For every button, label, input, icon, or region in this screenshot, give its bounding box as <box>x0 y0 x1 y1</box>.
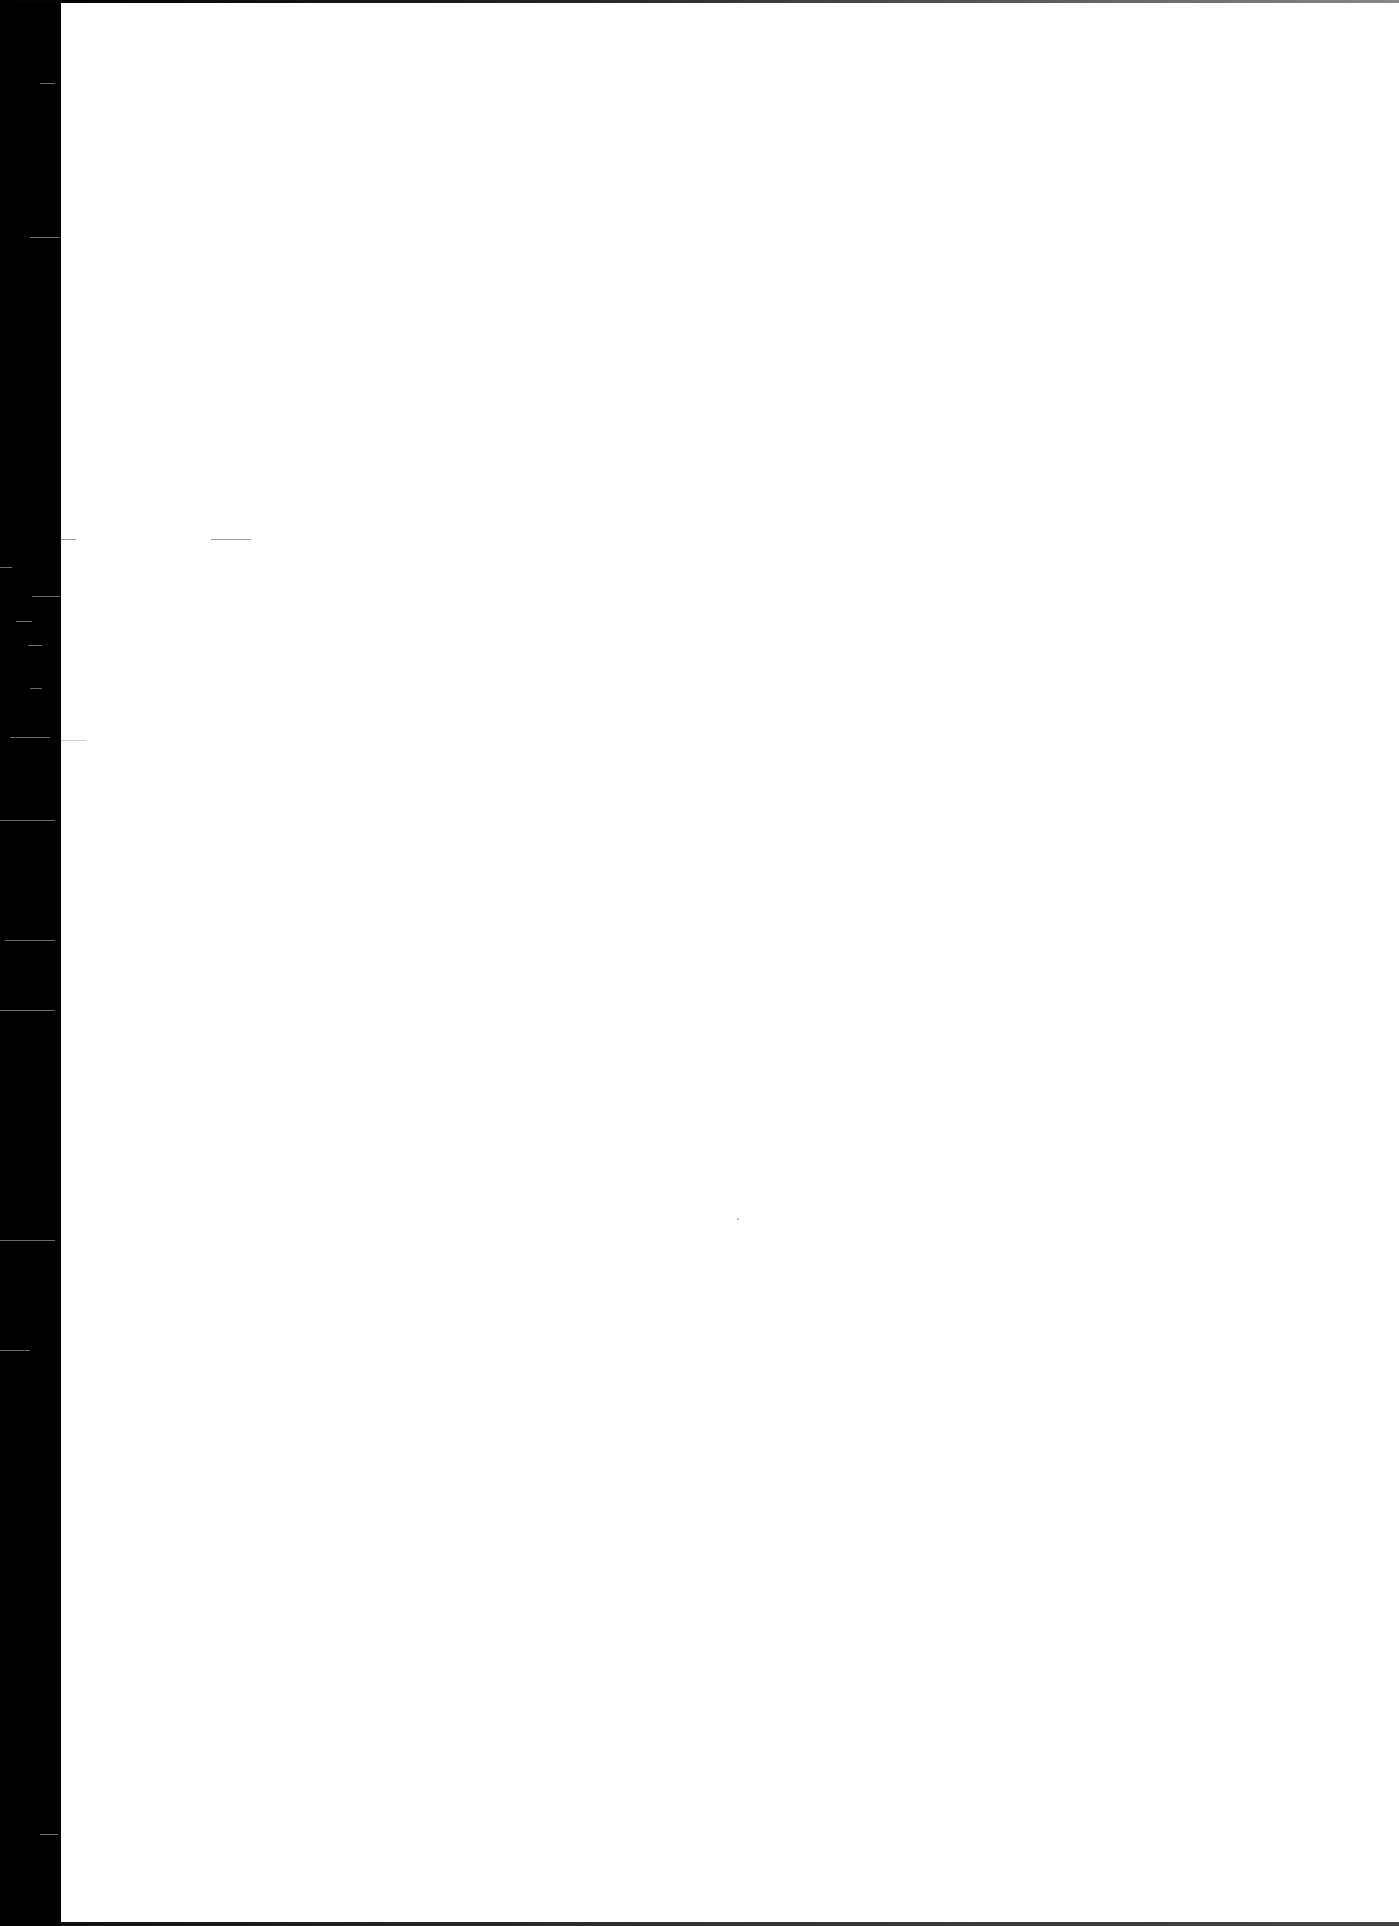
page-bottom-edge <box>61 1922 1399 1926</box>
scan-artifact <box>5 940 55 941</box>
scan-artifact <box>30 237 60 238</box>
scan-artifact <box>61 539 76 540</box>
scan-artifact <box>0 567 12 568</box>
scan-artifact <box>0 1010 55 1011</box>
scan-artifact <box>32 596 60 597</box>
blank-page <box>61 3 1399 1922</box>
scan-artifact <box>61 740 86 741</box>
scan-edge-strip <box>0 0 61 1926</box>
scan-artifact <box>30 688 42 689</box>
scan-artifact <box>0 820 55 821</box>
scan-artifact <box>0 1240 55 1241</box>
scan-artifact <box>10 737 50 738</box>
scan-artifact <box>16 621 32 622</box>
scan-artifact <box>211 539 251 540</box>
scan-artifact <box>40 83 55 84</box>
scan-artifact <box>737 1218 739 1220</box>
scan-artifact <box>28 645 42 646</box>
scan-artifact <box>40 1834 58 1835</box>
scan-artifact <box>0 1350 30 1351</box>
